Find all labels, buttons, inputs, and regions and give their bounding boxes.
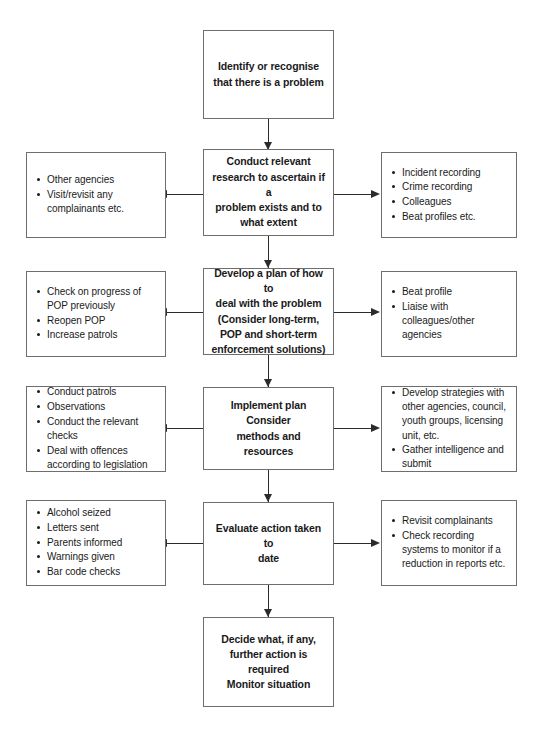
bullet-list: Other agencies Visit/revisit any complai… — [27, 173, 165, 217]
bullet-list: Alcohol seized Letters sent Parents info… — [27, 506, 165, 579]
list-item: Deal with offences according to legislat… — [47, 444, 159, 472]
arrowhead-right-research — [371, 190, 380, 198]
list-item: Other agencies — [47, 173, 159, 187]
arrowhead-right-evaluate — [371, 539, 380, 547]
connector-develop-to-left — [166, 312, 203, 313]
list-item: Warnings given — [47, 550, 159, 564]
node-line: Consider — [211, 413, 326, 428]
list-item: Conduct patrols — [47, 385, 159, 399]
box-research-inputs-left[interactable]: Other agencies Visit/revisit any complai… — [26, 152, 166, 238]
bullet-list: Check on progress of POP previously Reop… — [27, 285, 165, 343]
list-item: Conduct the relevant checks — [47, 415, 159, 443]
connector-research-to-left — [166, 194, 203, 195]
arrowhead-down-decide — [264, 609, 272, 617]
node-develop-plan-text: Develop a plan of how to deal with the p… — [204, 266, 333, 357]
node-evaluate-action-text: Evaluate action taken to date — [204, 521, 333, 567]
node-line: POP and short-term — [211, 327, 326, 342]
node-line: that there is a problem — [211, 75, 326, 90]
list-item: Beat profile — [402, 285, 510, 299]
node-conduct-research-text: Conduct relevant research to ascertain i… — [204, 154, 333, 230]
list-item: Increase patrols — [47, 328, 159, 342]
list-item: Letters sent — [47, 521, 159, 535]
box-evaluate-outcomes-left[interactable]: Alcohol seized Letters sent Parents info… — [26, 500, 166, 586]
node-identify-problem-text: Identify or recognise that there is a pr… — [204, 59, 333, 89]
bullet-list: Develop strategies with other agencies, … — [382, 386, 516, 472]
node-identify-problem[interactable]: Identify or recognise that there is a pr… — [203, 30, 334, 119]
list-item: Parents informed — [47, 536, 159, 550]
bullet-list: Beat profile Liaise with colleagues/othe… — [382, 285, 516, 343]
list-item: Bar code checks — [47, 565, 159, 579]
arrowhead-right-develop — [371, 308, 380, 316]
box-implement-actions-left[interactable]: Conduct patrols Observations Conduct the… — [26, 386, 166, 472]
connector-implement-to-left — [166, 428, 203, 429]
arrowhead-down-implement — [264, 379, 272, 387]
connector-implement-to-right — [334, 428, 372, 429]
node-develop-plan[interactable]: Develop a plan of how to deal with the p… — [203, 268, 334, 355]
list-item: Develop strategies with other agencies, … — [402, 386, 510, 443]
node-line: Decide what, if any, — [211, 632, 326, 647]
node-line: Identify or recognise — [211, 59, 326, 74]
connector-research-to-right — [334, 194, 372, 195]
node-decide-further-action-text: Decide what, if any, further action is r… — [204, 632, 333, 693]
list-item: Colleagues — [402, 195, 510, 209]
node-line: date — [211, 551, 326, 566]
box-evaluate-monitoring-right[interactable]: Revisit complainants Check recording sys… — [381, 500, 517, 586]
list-item: Incident recording — [402, 166, 510, 180]
node-line: required — [211, 662, 326, 677]
connector-develop-to-right — [334, 312, 372, 313]
node-line: Implement plan — [211, 398, 326, 413]
list-item: Beat profiles etc. — [402, 210, 510, 224]
node-decide-further-action[interactable]: Decide what, if any, further action is r… — [203, 617, 334, 707]
list-item: Alcohol seized — [47, 506, 159, 520]
connector-evaluate-to-right — [334, 543, 372, 544]
node-line: research to ascertain if a — [211, 170, 326, 200]
list-item: Crime recording — [402, 180, 510, 194]
node-line: Develop a plan of how to — [211, 266, 326, 296]
list-item: Reopen POP — [47, 314, 159, 328]
node-line: further action is — [211, 647, 326, 662]
node-line: deal with the problem — [211, 296, 326, 311]
list-item: Observations — [47, 400, 159, 414]
box-develop-resources-right[interactable]: Beat profile Liaise with colleagues/othe… — [381, 271, 517, 357]
list-item: Check recording systems to monitor if a … — [402, 529, 510, 572]
list-item: Check on progress of POP previously — [47, 285, 159, 313]
node-implement-plan[interactable]: Implement plan Consider methods and reso… — [203, 387, 334, 470]
box-implement-partnerships-right[interactable]: Develop strategies with other agencies, … — [381, 386, 517, 472]
box-develop-inputs-left[interactable]: Check on progress of POP previously Reop… — [26, 271, 166, 357]
node-line: Monitor situation — [211, 677, 326, 692]
list-item: Liaise with colleagues/other agencies — [402, 300, 510, 343]
bullet-list: Conduct patrols Observations Conduct the… — [27, 385, 165, 472]
node-line: Evaluate action taken to — [211, 521, 326, 551]
node-line: enforcement solutions) — [211, 342, 326, 357]
node-line: problem exists and to — [211, 200, 326, 215]
list-item: Gather intelligence and submit — [402, 443, 510, 471]
flowchart-diagram: Identify or recognise that there is a pr… — [0, 0, 534, 747]
arrowhead-down-evaluate — [264, 494, 272, 502]
connector-evaluate-to-left — [166, 543, 203, 544]
node-line: Conduct relevant — [211, 154, 326, 169]
bullet-list: Incident recording Crime recording Colle… — [382, 166, 516, 225]
node-implement-plan-text: Implement plan Consider methods and reso… — [204, 398, 333, 459]
bullet-list: Revisit complainants Check recording sys… — [382, 514, 516, 572]
node-evaluate-action[interactable]: Evaluate action taken to date — [203, 502, 334, 585]
node-line: (Consider long-term, — [211, 312, 326, 327]
node-line: what extent — [211, 215, 326, 230]
node-conduct-research[interactable]: Conduct relevant research to ascertain i… — [203, 149, 334, 236]
list-item: Revisit complainants — [402, 514, 510, 528]
box-research-sources-right[interactable]: Incident recording Crime recording Colle… — [381, 152, 517, 238]
node-line: methods and resources — [211, 429, 326, 459]
arrowhead-right-implement — [371, 424, 380, 432]
list-item: Visit/revisit any complainants etc. — [47, 188, 159, 216]
